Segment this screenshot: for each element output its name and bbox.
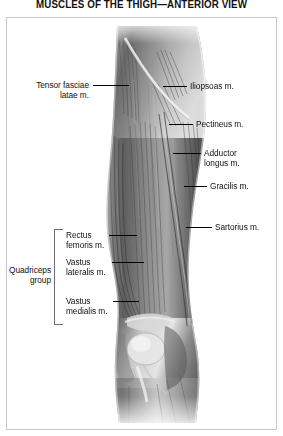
label-quadriceps-group: Quadriceps group (7, 265, 51, 285)
leader-pectineus (169, 124, 193, 125)
label-vastus-medialis: Vastus medialis m. (66, 296, 124, 316)
page-title: MUSCLES OF THE THIGH—ANTERIOR VIEW (10, 0, 273, 11)
quadriceps-bracket (54, 229, 63, 325)
label-tensor-fasciae-latae: Tensor fasciae latae m. (7, 80, 89, 100)
label-sartorius: Sartorius m. (215, 222, 278, 232)
label-iliopsoas: Iliopsoas m. (190, 81, 276, 91)
label-vastus-lateralis: Vastus lateralis m. (66, 257, 122, 277)
leader-sartorius (186, 227, 212, 228)
leader-iliopsoas (163, 86, 187, 87)
diagram-page: MUSCLES OF THE THIGH—ANTERIOR VIEW (0, 0, 283, 436)
label-adductor-longus: Adductor longus m. (204, 148, 278, 168)
leader-gracilis (184, 186, 207, 187)
label-pectineus: Pectineus m. (196, 119, 278, 129)
leader-adductor-longus (173, 153, 201, 154)
label-gracilis: Gracilis m. (210, 181, 278, 191)
patella (127, 333, 165, 365)
label-rectus-femoris: Rectus femoris m. (66, 230, 122, 250)
leader-tensor-fasciae-latae (93, 85, 129, 86)
illustration-frame: Tensor fasciae latae m. Iliopsoas m. Pec… (6, 17, 277, 430)
